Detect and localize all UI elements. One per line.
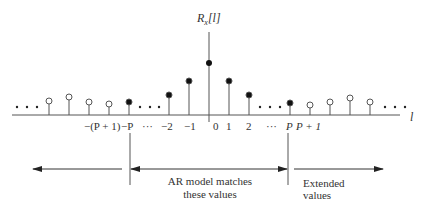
x-axis-label: l <box>410 110 414 124</box>
tick-neg-2: −2 <box>161 120 173 132</box>
matched-label-line2: these values <box>183 188 236 200</box>
tick-0: 0 <box>213 120 219 132</box>
ellipsis-dots <box>16 106 406 108</box>
extended-label-line2: values <box>303 189 331 201</box>
tick-neg-1: −1 <box>184 120 196 132</box>
tick-2: 2 <box>246 120 252 132</box>
extended-label-line1: Extended <box>303 177 345 189</box>
tick-pos-p: P <box>285 120 293 132</box>
y-axis-label: Rx[l] <box>196 11 221 27</box>
matched-label-line1: AR model matches <box>168 175 252 187</box>
autocorrelation-diagram: l Rx[l] −(P + 1) −P ··· −2 −1 <box>0 0 437 208</box>
tick-pos-dots: ··· <box>266 120 277 132</box>
tick-pos-p-plus-1: P + 1 <box>295 120 321 132</box>
tick-neg-p: −P <box>121 120 133 132</box>
tick-neg-dots: ··· <box>142 120 153 132</box>
sample-0 <box>206 60 212 66</box>
tick-1: 1 <box>226 120 232 132</box>
tick-neg-p-plus-1: −(P + 1) <box>84 120 121 133</box>
